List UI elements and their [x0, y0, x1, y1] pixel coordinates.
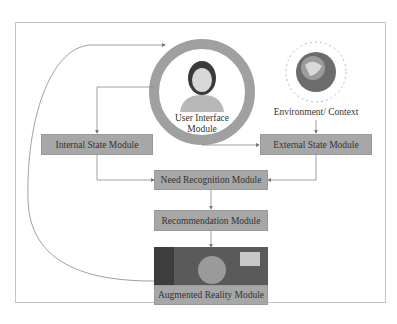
user-interface-label: User Interface Module — [160, 113, 244, 135]
augmented-reality-module: Augmented Reality Module — [154, 285, 268, 305]
environment-globe-icon — [286, 42, 346, 102]
recommendation-module: Recommendation Module — [154, 210, 268, 231]
environment-label: Environment/ Context — [265, 107, 367, 118]
augmented-reality-image — [154, 247, 268, 285]
user-interface-label-line2: Module — [160, 124, 244, 135]
internal-state-module: Internal State Module — [41, 134, 153, 155]
need-recognition-module: Need Recognition Module — [154, 170, 268, 190]
diagram-connectors — [0, 0, 397, 324]
external-state-module: External State Module — [260, 134, 372, 155]
user-interface-label-line1: User Interface — [160, 113, 244, 124]
